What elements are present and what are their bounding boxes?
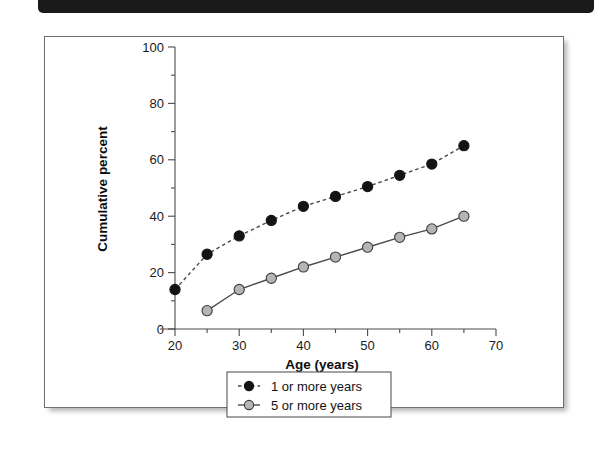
- figure-frame: [44, 36, 564, 408]
- page-header-bar: [38, 0, 594, 13]
